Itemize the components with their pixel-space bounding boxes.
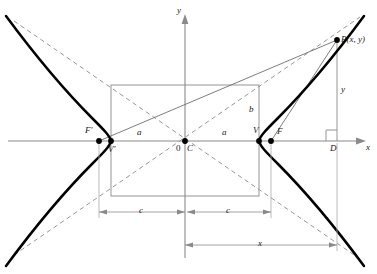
y-axis-label: y: [177, 6, 181, 15]
point-p-label: P(x, y): [341, 35, 365, 44]
right-angle-mark: [326, 130, 337, 141]
figure-canvas: [0, 0, 377, 274]
focal-rays: [99, 40, 337, 141]
dimension-c-right-label: c: [226, 206, 230, 215]
focus-left-label: F': [85, 126, 92, 135]
origin-label: 0: [176, 144, 181, 153]
semi-axis-left-label: a: [137, 128, 142, 137]
dimension-c-left-arrow-end: [177, 209, 185, 214]
vertex-right-label: V: [253, 126, 259, 135]
hyperbola-diagram: y x 0 C F' V' V F P(x, y) D a a b y c c …: [0, 0, 377, 274]
semi-axis-right-label: a: [222, 128, 227, 137]
dimension-x-arrow-end: [329, 242, 337, 247]
x-axis-arrowhead: [356, 138, 366, 145]
point-focus-left: [96, 138, 102, 144]
dimension-x-label: x: [258, 239, 262, 248]
ordinate-y-label: y: [341, 85, 345, 94]
focal-ray-left: [99, 40, 337, 141]
dimension-c-right-arrow-start: [187, 209, 195, 214]
x-axis-label: x: [366, 143, 370, 152]
semi-conjugate-label: b: [249, 105, 254, 114]
dimension-c-left-label: c: [139, 206, 143, 215]
point-vertex-right: [256, 138, 262, 144]
dimension-extension-lines: [99, 143, 337, 251]
foot-d-label: D: [330, 144, 337, 153]
dimension-x-arrow-start: [185, 242, 193, 247]
focus-right-label: F: [277, 127, 283, 136]
dimension-c-right-arrow-end: [263, 209, 271, 214]
dimension-c-left-arrow-start: [99, 209, 107, 214]
center-label: C: [187, 144, 193, 153]
point-p: [334, 37, 340, 43]
point-focus-right: [268, 138, 274, 144]
asymptotes: [14, 17, 360, 259]
y-axis-arrowhead: [182, 14, 189, 24]
vertex-left-label: V': [108, 145, 115, 154]
